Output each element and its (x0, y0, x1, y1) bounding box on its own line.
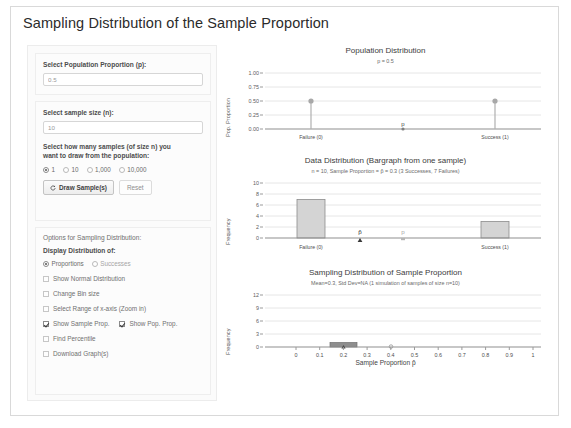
checkbox-icon (43, 321, 49, 327)
plot-area: Pop. Proportion 1.00 0.75 0.50 0.25 0.00 (223, 65, 548, 143)
radio-icon (92, 261, 98, 267)
sampling-distribution-chart: Sampling Distribution of Sample Proporti… (223, 267, 548, 387)
checkbox-change-bin-size[interactable]: Change Bin size (43, 290, 100, 297)
svg-text:0.25: 0.25 (249, 112, 260, 118)
checkbox-row-normal: Show Normal Distribution (43, 275, 203, 282)
sample-size-label: Select sample size (n): (43, 108, 203, 117)
population-proportion-label: Select Population Proportion (p): (43, 60, 203, 69)
population-proportion-panel: Select Population Proportion (p): (35, 53, 211, 95)
population-plot-svg: 1.00 0.75 0.50 0.25 0.00 (223, 65, 548, 143)
svg-text:p: p (401, 228, 405, 235)
y-axis-label: Frequency (225, 219, 231, 245)
sample-size-input[interactable] (43, 121, 203, 134)
svg-text:0: 0 (256, 344, 259, 350)
checkbox-select-range-x-axis[interactable]: Select Range of x-axis (Zoom in) (43, 305, 146, 312)
svg-text:0.6: 0.6 (434, 352, 442, 358)
svg-text:10: 10 (253, 180, 259, 186)
checkbox-show-pop-prop[interactable]: Show Pop. Prop. (119, 320, 177, 327)
svg-text:Success (1): Success (1) (481, 134, 509, 140)
checkbox-row-xrange: Select Range of x-axis (Zoom in) (43, 305, 203, 312)
svg-text:Failure (0): Failure (0) (299, 244, 323, 250)
num-samples-option-10[interactable]: 10 (63, 166, 79, 173)
y-gridlines (265, 73, 541, 115)
num-samples-label-line1: Select how many samples (of size n) you (43, 142, 203, 151)
checkbox-icon (43, 306, 49, 312)
radio-icon (43, 261, 49, 267)
y-axis-ticks: 1.00 0.75 0.50 0.25 0.00 (249, 70, 264, 132)
svg-text:0.5: 0.5 (411, 352, 419, 358)
checkbox-download-graphs[interactable]: Download Graph(s) (43, 350, 108, 357)
plot-area: Frequency 10 8 6 4 2 (223, 175, 548, 255)
action-buttons: Draw Sample(s) Reset (43, 180, 203, 195)
svg-text:4: 4 (256, 213, 259, 219)
sample-prop-annotation: p̂ (358, 228, 363, 242)
checkbox-icon (43, 291, 49, 297)
draw-samples-label: Draw Sample(s) (59, 184, 107, 191)
population-distribution-chart: Population Distribution p = 0.5 Pop. Pro… (223, 45, 548, 155)
svg-text:1: 1 (532, 352, 535, 358)
data-distribution-chart: Data Distribution (Bargraph from one sam… (223, 155, 548, 267)
sampling-plot-svg: 12 9 6 3 0 0 0 (223, 287, 548, 365)
num-samples-option-10000[interactable]: 10,000 (119, 166, 147, 173)
svg-text:0.75: 0.75 (249, 84, 260, 90)
checkbox-icon (43, 336, 49, 342)
svg-text:Success (1): Success (1) (481, 244, 509, 250)
population-proportion-input[interactable] (43, 73, 203, 86)
svg-text:0: 0 (256, 235, 259, 241)
checkbox-show-normal-distribution[interactable]: Show Normal Distribution (43, 275, 125, 282)
checkbox-show-sample-prop[interactable]: Show Sample Prop. (43, 320, 109, 327)
checkbox-icon (119, 321, 125, 327)
svg-text:8: 8 (256, 191, 259, 197)
radio-icon (87, 167, 93, 173)
sample-settings-panel: Select sample size (n): Select how many … (35, 101, 211, 221)
charts-area: Population Distribution p = 0.5 Pop. Pro… (223, 45, 548, 395)
svg-text:0.1: 0.1 (316, 352, 324, 358)
refresh-icon (50, 185, 56, 191)
lollipop-success (492, 98, 497, 129)
sidebar: Select Population Proportion (p): Select… (27, 45, 217, 401)
display-distribution-radio-group: Proportions Successes (43, 260, 203, 267)
svg-text:p: p (401, 121, 405, 127)
svg-text:2: 2 (256, 224, 259, 230)
draw-samples-button[interactable]: Draw Sample(s) (43, 180, 114, 195)
data-plot-svg: 10 8 6 4 2 0 p̂ p (223, 175, 548, 255)
reset-label: Reset (127, 184, 144, 191)
y-gridlines (265, 295, 541, 334)
y-axis-ticks: 10 8 6 4 2 0 (253, 180, 263, 241)
svg-text:6: 6 (256, 202, 259, 208)
bar-failure (297, 200, 325, 239)
num-samples-label-line2: want to draw from the population: (43, 151, 203, 160)
radio-icon (43, 167, 49, 173)
lollipop-failure (308, 98, 313, 129)
svg-text:0.9: 0.9 (506, 352, 514, 358)
chart-subtitle: n = 10, Sample Proportion = p̂ = 0.3 (3 … (223, 167, 548, 175)
checkbox-row-download: Download Graph(s) (43, 350, 203, 357)
svg-text:1.00: 1.00 (249, 70, 260, 76)
svg-text:12: 12 (253, 292, 259, 298)
svg-text:0.7: 0.7 (458, 352, 466, 358)
num-samples-option-1000[interactable]: 1,000 (87, 166, 111, 173)
reset-button[interactable]: Reset (119, 180, 152, 195)
svg-text:p̂: p̂ (358, 228, 362, 235)
svg-text:0.8: 0.8 (482, 352, 490, 358)
svg-text:0: 0 (295, 352, 298, 358)
x-axis-ticks: 0 0.1 0.2 0.3 0.4 0.5 0.6 0.7 0.8 0.9 1 (295, 347, 535, 358)
chart-subtitle: Mean=0.3, Std Dev=NA (1 simulation of sa… (223, 279, 548, 287)
chart-title: Population Distribution (223, 45, 548, 56)
page-title: Sampling Distribution of the Sample Prop… (23, 15, 329, 31)
svg-text:6: 6 (256, 318, 259, 324)
radio-icon (63, 167, 69, 173)
y-axis-label: Pop. Proportion (225, 98, 231, 137)
svg-text:9: 9 (256, 305, 259, 311)
checkbox-find-percentile[interactable]: Find Percentile (43, 335, 96, 342)
num-samples-option-1[interactable]: 1 (43, 166, 55, 173)
x-axis-ticks: Failure (0) Success (1) (299, 244, 509, 250)
display-option-proportions[interactable]: Proportions (43, 260, 84, 267)
svg-text:0.2: 0.2 (340, 352, 348, 358)
app-window: Sampling Distribution of the Sample Prop… (10, 6, 559, 416)
plot-area: Frequency 12 9 6 3 0 (223, 287, 548, 365)
bar-success (481, 222, 509, 239)
svg-text:0.4: 0.4 (387, 352, 395, 358)
checkbox-row-props: Show Sample Prop. Show Pop. Prop. (43, 320, 203, 327)
display-option-successes[interactable]: Successes (92, 260, 131, 267)
